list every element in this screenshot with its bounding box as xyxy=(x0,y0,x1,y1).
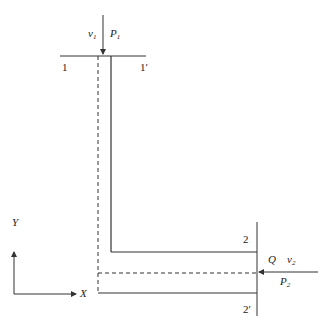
y-axis-label: Y xyxy=(12,216,20,228)
section-2-label: 2 xyxy=(243,233,249,245)
section-1-prime-label: 1′ xyxy=(140,61,148,73)
v2-label: v2 xyxy=(287,253,296,267)
pipe-bend-diagram: v1 P1 1 1′ 2 2′ Q v2 P2 Y X xyxy=(0,0,326,327)
section-2-prime-label: 2′ xyxy=(243,303,251,315)
section-1-label: 1 xyxy=(62,61,68,73)
x-axis-label: X xyxy=(79,287,88,299)
q-label: Q xyxy=(268,253,276,265)
v1-label: v1 xyxy=(88,27,96,41)
p1-label: P1 xyxy=(109,27,120,41)
p2-label: P2 xyxy=(279,275,291,289)
